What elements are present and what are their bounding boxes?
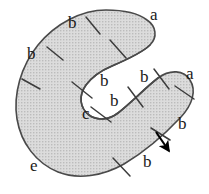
edge-label-b-top: b <box>68 14 77 31</box>
edge-label-b-left: b <box>27 45 36 62</box>
edge-label-b-right-lower: b <box>178 115 187 132</box>
figure-container: a b b b b a b c b b e <box>0 0 209 194</box>
edge-label-c-inner: c <box>82 105 90 122</box>
edge-label-b-center-lower: b <box>110 92 119 109</box>
edge-label-a-top: a <box>150 6 158 23</box>
edge-label-e-bottom-left: e <box>30 157 38 174</box>
spiral-region-shape <box>16 10 193 176</box>
edge-label-b-center-upper: b <box>100 72 109 89</box>
edge-label-a-right: a <box>186 65 194 82</box>
edge-label-b-bottom: b <box>143 153 152 170</box>
edge-label-b-inner-right: b <box>140 68 149 85</box>
